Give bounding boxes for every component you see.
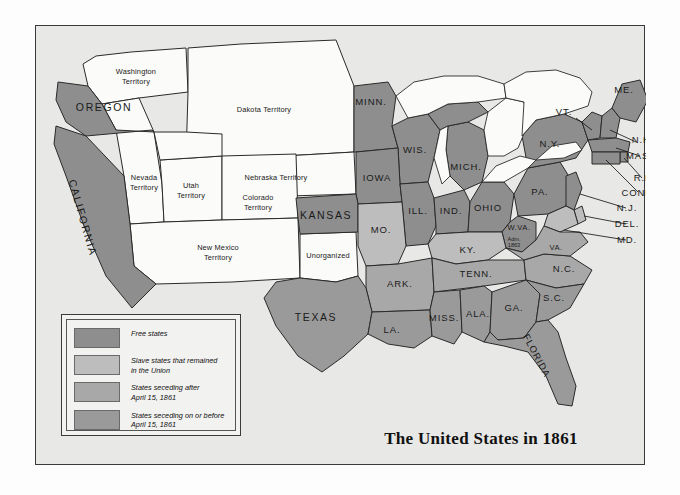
legend-label-seceding-before: States seceding on or before April 15, 1… bbox=[131, 410, 224, 430]
label-kansas: KANSAS bbox=[300, 209, 352, 221]
label-me: ME. bbox=[614, 84, 634, 95]
legend-swatch-seceding-after bbox=[74, 382, 120, 402]
legend-swatch-slave-union bbox=[74, 355, 120, 375]
utah-territory-upper bbox=[154, 132, 222, 160]
legend-swatch-free-states bbox=[74, 328, 120, 348]
legend-row-slave-union: Slave states that remained in the Union bbox=[74, 355, 228, 375]
label-wis: WIS. bbox=[403, 144, 427, 155]
label-mo: MO. bbox=[371, 224, 392, 235]
label-tenn: TENN. bbox=[460, 268, 493, 279]
legend-label-slave-union: Slave states that remained in the Union bbox=[131, 355, 217, 375]
legend-row-seceding-before: States seceding on or before April 15, 1… bbox=[74, 410, 228, 430]
legend-label-free-states: Free states bbox=[131, 328, 168, 339]
legend-swatch-seceding-before bbox=[74, 410, 120, 430]
label-nebraska-territory: Nebraska Territory bbox=[245, 173, 308, 182]
label-ny: N.Y. bbox=[540, 138, 561, 149]
label-oregon: OREGON bbox=[76, 101, 132, 113]
label-unorganized: Unorganized bbox=[306, 251, 350, 260]
map-page: WashingtonTerritory Dakota Territory Neb… bbox=[0, 0, 680, 495]
label-ky: KY. bbox=[460, 244, 477, 255]
label-la: LA. bbox=[384, 324, 401, 335]
label-nevada-territory: NevadaTerritory bbox=[130, 173, 158, 192]
label-va: VA. bbox=[549, 243, 562, 252]
label-ala: ALA. bbox=[466, 308, 490, 319]
label-texas: TEXAS bbox=[295, 311, 337, 323]
label-iowa: IOWA bbox=[363, 172, 392, 183]
label-nj: N.J. bbox=[617, 202, 638, 213]
label-ind: IND. bbox=[440, 205, 463, 216]
texas-shape bbox=[264, 276, 372, 372]
label-vt: VT. bbox=[556, 106, 572, 117]
label-wva: W.VA. bbox=[507, 223, 530, 232]
legend-row-free-states: Free states bbox=[74, 328, 228, 348]
label-wva-note: Adm.1863 bbox=[507, 236, 521, 248]
label-md: MD. bbox=[617, 234, 637, 245]
label-nc: N.C. bbox=[553, 263, 576, 274]
map-legend: Free states Slave states that remained i… bbox=[61, 314, 241, 436]
label-mass: MASS. bbox=[626, 150, 646, 161]
michigan-shape bbox=[446, 122, 488, 190]
label-ark: ARK. bbox=[387, 278, 413, 289]
new-jersey-shape bbox=[566, 172, 582, 210]
label-sc: S.C. bbox=[543, 292, 565, 303]
legend-inner-border: Free states Slave states that remained i… bbox=[66, 319, 236, 431]
label-minn: MINN. bbox=[355, 96, 386, 107]
map-frame: WashingtonTerritory Dakota Territory Neb… bbox=[35, 25, 645, 465]
label-ill: ILL. bbox=[408, 205, 427, 216]
label-ri: R.I. bbox=[634, 172, 646, 183]
label-colorado-territory: ColoradoTerritory bbox=[242, 193, 273, 212]
label-nh: N.H. bbox=[632, 134, 646, 145]
label-conn: CONN. bbox=[621, 187, 646, 198]
legend-row-seceding-after: States seceding after April 15, 1861 bbox=[74, 382, 228, 402]
label-ga: GA. bbox=[504, 302, 523, 313]
label-ohio: OHIO bbox=[474, 202, 502, 213]
lake-huron-shape bbox=[484, 98, 528, 156]
minnesota-shape bbox=[354, 82, 398, 152]
label-del: DEL. bbox=[615, 218, 640, 229]
label-miss: MISS. bbox=[429, 312, 459, 323]
label-mich: MICH. bbox=[450, 161, 481, 172]
legend-label-seceding-after: States seceding after April 15, 1861 bbox=[131, 382, 200, 402]
map-title: The United States in 1861 bbox=[336, 429, 626, 449]
massachusetts-shape bbox=[588, 138, 630, 152]
label-pa: PA. bbox=[531, 186, 548, 197]
connecticut-shape bbox=[592, 152, 620, 164]
label-dakota-territory: Dakota Territory bbox=[237, 105, 292, 114]
